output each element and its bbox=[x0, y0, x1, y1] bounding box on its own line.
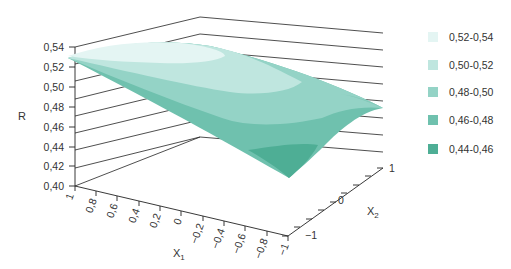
legend-item: 0,50-0,52 bbox=[428, 59, 494, 71]
svg-text:−1: −1 bbox=[276, 241, 291, 257]
floor-back-left bbox=[75, 137, 200, 186]
z-axis-title: R bbox=[18, 110, 26, 122]
x2-axis-title: X2 bbox=[367, 205, 379, 220]
svg-text:−0,4: −0,4 bbox=[209, 226, 227, 250]
svg-text:−0,8: −0,8 bbox=[252, 236, 270, 260]
svg-text:−0,2: −0,2 bbox=[188, 221, 206, 245]
svg-text:0: 0 bbox=[171, 216, 184, 226]
x2-tick-labels: 1 0 −1 bbox=[305, 162, 395, 241]
svg-text:0,50: 0,50 bbox=[44, 81, 65, 93]
legend-item: 0,44-0,46 bbox=[428, 143, 494, 155]
x1-axis-title: X1 bbox=[173, 247, 185, 262]
svg-text:−0,6: −0,6 bbox=[230, 231, 248, 255]
svg-text:0: 0 bbox=[338, 194, 344, 206]
z-ticks bbox=[69, 47, 75, 186]
svg-text:0,52-0,54: 0,52-0,54 bbox=[449, 31, 494, 43]
svg-text:0,2: 0,2 bbox=[147, 211, 163, 229]
svg-text:0,48: 0,48 bbox=[44, 101, 65, 113]
legend-swatch bbox=[428, 60, 438, 70]
legend-swatch bbox=[428, 144, 438, 154]
legend-item: 0,48-0,50 bbox=[428, 86, 494, 98]
z-tick-labels: 0,54 0,52 0,50 0,48 0,46 0,44 0,42 0,40 bbox=[44, 41, 65, 192]
x2-ticks bbox=[282, 168, 383, 236]
svg-text:0,40: 0,40 bbox=[44, 180, 65, 192]
legend: 0,52-0,54 0,50-0,52 0,48-0,50 0,46-0,48 … bbox=[428, 31, 494, 155]
svg-text:−1: −1 bbox=[305, 229, 317, 241]
legend-swatch bbox=[428, 115, 438, 125]
legend-item: 0,52-0,54 bbox=[428, 31, 494, 43]
svg-text:0,52: 0,52 bbox=[44, 61, 65, 73]
svg-text:0,4: 0,4 bbox=[126, 206, 142, 224]
svg-text:0,54: 0,54 bbox=[44, 41, 65, 53]
svg-text:0,50-0,52: 0,50-0,52 bbox=[449, 59, 494, 71]
svg-text:0,44: 0,44 bbox=[44, 141, 65, 153]
surface-chart: 0,54 0,52 0,50 0,48 0,46 0,44 0,42 0,40 … bbox=[0, 0, 511, 269]
svg-text:0,46: 0,46 bbox=[44, 121, 65, 133]
svg-text:0,8: 0,8 bbox=[83, 196, 99, 214]
svg-text:0,46-0,48: 0,46-0,48 bbox=[449, 114, 494, 126]
legend-item: 0,46-0,48 bbox=[428, 114, 494, 126]
svg-text:0,44-0,46: 0,44-0,46 bbox=[449, 143, 494, 155]
svg-text:0,6: 0,6 bbox=[104, 201, 120, 219]
legend-swatch bbox=[428, 32, 438, 42]
svg-text:1: 1 bbox=[63, 191, 76, 201]
svg-text:0,48-0,50: 0,48-0,50 bbox=[449, 86, 494, 98]
legend-swatch bbox=[428, 87, 438, 97]
svg-text:0,42: 0,42 bbox=[44, 160, 65, 172]
svg-text:1: 1 bbox=[389, 162, 395, 174]
